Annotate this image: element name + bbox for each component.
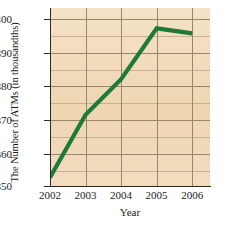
y-tick-label-370: 370 <box>0 114 12 126</box>
data-series-line <box>50 8 210 186</box>
y-tickmark-350 <box>44 186 50 187</box>
x-tick-label-2006: 2006 <box>172 189 212 201</box>
x-tick-label-2005: 2005 <box>137 189 177 201</box>
y-tick-label-350: 350 <box>0 180 12 192</box>
x-tick-label-2004: 2004 <box>101 189 141 201</box>
y-tickmark-390 <box>44 53 50 54</box>
x-axis-title: Year <box>50 206 210 218</box>
y-axis-line <box>50 8 51 187</box>
y-tickmark-360 <box>44 154 50 155</box>
plot-area <box>50 8 210 186</box>
y-tick-label-380: 380 <box>0 80 12 92</box>
line-chart-figure: The Number of ATMs (in thousandths) 400 … <box>0 0 226 244</box>
y-axis-title: The Number of ATMs (in thousandths) <box>9 12 20 194</box>
x-tick-label-2003: 2003 <box>66 189 106 201</box>
y-tickmark-370 <box>44 120 50 121</box>
x-tick-label-2002: 2002 <box>30 189 70 201</box>
y-tickmark-380 <box>44 86 50 87</box>
x-axis-line <box>50 186 211 187</box>
y-tick-label-400: 400 <box>0 13 12 25</box>
y-tickmark-400 <box>44 19 50 20</box>
y-tick-label-360: 360 <box>0 148 12 160</box>
y-tick-label-390: 390 <box>0 47 12 59</box>
